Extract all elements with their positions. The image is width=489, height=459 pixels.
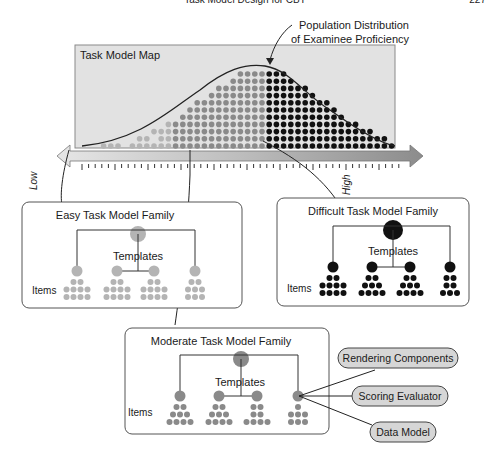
running-header: Task Model Design for CBT <box>184 0 306 5</box>
rendering-components-label: Rendering Components <box>343 352 454 364</box>
map-title: Task Model Map <box>80 49 160 61</box>
moderate-family: Moderate Task Model Family Templates Ite… <box>125 328 329 434</box>
axis-high-label: High <box>341 174 352 195</box>
curve-label-line2: of Examinee Proficiency <box>291 33 409 45</box>
axis-ticks <box>82 164 399 170</box>
easy-family: Easy Task Model Family Templates Items <box>22 202 242 308</box>
moderate-family-title: Moderate Task Model Family <box>151 335 292 347</box>
data-model-label: Data Model <box>376 426 430 438</box>
page-number: 227 <box>469 0 486 5</box>
task-model-map: Task Model Map Population Distribution o… <box>75 19 409 149</box>
difficult-items-label: Items <box>287 283 311 294</box>
easy-templates-label: Templates <box>113 250 164 262</box>
moderate-items-label: Items <box>128 407 152 418</box>
axis-low-label: Low <box>28 171 39 190</box>
difficult-family-title: Difficult Task Model Family <box>308 205 438 217</box>
moderate-templates-label: Templates <box>215 376 266 388</box>
difficult-family: Difficult Task Model Family Templates It… <box>277 198 469 306</box>
difficult-templates-label: Templates <box>368 245 419 257</box>
easy-family-title: Easy Task Model Family <box>56 209 175 221</box>
easy-items-label: Items <box>32 285 56 296</box>
proficiency-axis: Low High <box>28 145 423 195</box>
task-model-diagram: Task Model Design for CBT 227 Task Model… <box>0 0 489 459</box>
scoring-evaluator-label: Scoring Evaluator <box>359 390 442 402</box>
curve-label-line1: Population Distribution <box>299 19 409 31</box>
